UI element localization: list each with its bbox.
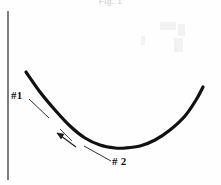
figure-container: Fig. 1 #1 # 2 <box>0 0 221 185</box>
callout-label-2: # 2 <box>112 155 126 167</box>
tangent-arrow-marker <box>57 129 76 147</box>
callout-label-1: #1 <box>11 89 22 101</box>
figure-drawing <box>0 0 221 185</box>
u-shaped-curve <box>26 72 203 148</box>
